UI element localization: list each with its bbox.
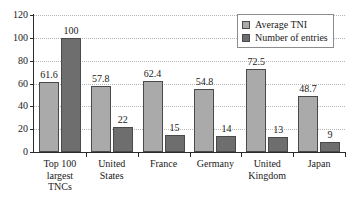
y-tick-mark xyxy=(30,15,34,16)
x-tick-mark xyxy=(86,152,87,157)
y-tick-label: 20 xyxy=(18,124,28,134)
x-category-label: Top 100 largest TNCs xyxy=(34,158,86,193)
x-tick-mark xyxy=(345,152,346,157)
y-tick-label: 120 xyxy=(13,10,28,20)
y-tick-label: 40 xyxy=(18,101,28,111)
bar-value-label: 48.7 xyxy=(292,84,324,94)
bar-value-label: 14 xyxy=(210,124,242,134)
bar xyxy=(246,69,266,152)
bar-value-label: 72.5 xyxy=(240,57,272,67)
y-tick-label: 60 xyxy=(18,79,28,89)
bar xyxy=(298,96,318,152)
x-tick-mark xyxy=(138,152,139,157)
bar xyxy=(143,81,163,152)
bar xyxy=(39,82,59,152)
bar-value-label: 22 xyxy=(107,115,139,125)
bar-value-label: 57.8 xyxy=(85,74,117,84)
bar xyxy=(216,136,236,152)
bar-value-label: 54.8 xyxy=(188,77,220,87)
x-category-label: Japan xyxy=(293,158,345,170)
bar-value-label: 62.4 xyxy=(137,69,169,79)
bar xyxy=(268,137,288,152)
x-tick-mark xyxy=(241,152,242,157)
bar-chart: 02040608010012061.610057.82262.41554.814… xyxy=(0,0,353,208)
x-category-label: France xyxy=(138,158,190,170)
legend-label-average-tni: Average TNI xyxy=(255,19,307,30)
bar xyxy=(113,127,133,152)
legend-item-average-tni: Average TNI xyxy=(242,18,328,31)
chart-legend: Average TNI Number of entries xyxy=(237,14,334,48)
y-tick-mark xyxy=(30,61,34,62)
legend-item-number-of-entries: Number of entries xyxy=(242,31,328,44)
y-tick-label: 0 xyxy=(23,147,28,157)
y-tick-label: 100 xyxy=(13,33,28,43)
x-category-label: United Kingdom xyxy=(241,158,293,181)
x-category-label: United States xyxy=(86,158,138,181)
bar-value-label: 9 xyxy=(314,130,346,140)
bar xyxy=(165,135,185,152)
x-category-label: Germany xyxy=(190,158,242,170)
bar-value-label: 13 xyxy=(262,125,294,135)
y-tick-mark xyxy=(30,106,34,107)
y-tick-mark xyxy=(30,129,34,130)
bar-value-label: 100 xyxy=(55,26,87,36)
bar xyxy=(194,89,214,152)
legend-label-number-of-entries: Number of entries xyxy=(255,32,328,43)
y-tick-mark xyxy=(30,152,34,153)
bar xyxy=(61,38,81,152)
legend-swatch-number-of-entries xyxy=(242,34,250,42)
y-tick-label: 80 xyxy=(18,56,28,66)
y-tick-mark xyxy=(30,38,34,39)
bar-value-label: 15 xyxy=(159,123,191,133)
x-tick-mark xyxy=(293,152,294,157)
legend-swatch-average-tni xyxy=(242,21,250,29)
y-tick-mark xyxy=(30,84,34,85)
x-tick-mark xyxy=(190,152,191,157)
bar xyxy=(320,142,340,152)
